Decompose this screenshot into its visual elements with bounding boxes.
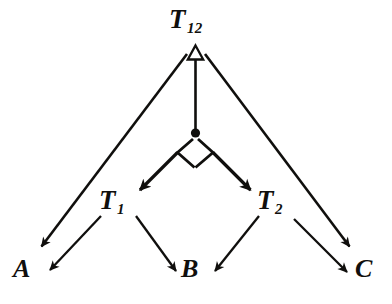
node-t12-base: T <box>169 4 186 34</box>
edge-t1-to-b <box>136 216 176 271</box>
node-label-a: A <box>13 256 31 282</box>
node-t2-subscript: 2 <box>274 201 283 217</box>
hollow-triangle-arrowhead-icon <box>188 46 203 60</box>
node-c-base: C <box>355 254 373 283</box>
merge-dot-icon <box>191 128 200 137</box>
node-label-t12: T12 <box>169 6 203 36</box>
edge-t12-to-c <box>205 54 350 247</box>
node-t2-base: T <box>257 185 274 215</box>
edge-junction-to-t2 <box>213 153 251 191</box>
node-t1-subscript: 1 <box>116 201 125 217</box>
edge-t2-to-c <box>294 219 347 272</box>
node-label-t1: T1 <box>99 187 125 217</box>
edge-t12-to-a <box>42 54 188 247</box>
node-t1-base: T <box>99 185 116 215</box>
diagram-canvas: T12 T1 T2 A B C <box>0 0 392 304</box>
edge-junction-to-t1 <box>140 153 178 191</box>
junction-diamond-left-upper <box>178 139 195 168</box>
node-label-b: B <box>181 256 199 282</box>
node-label-t2: T2 <box>257 187 283 217</box>
node-label-c: C <box>355 256 373 282</box>
junction-diamond-right-upper <box>196 139 214 168</box>
node-t12-subscript: 12 <box>186 20 203 36</box>
edge-t2-to-b <box>215 216 259 271</box>
node-b-base: B <box>181 254 199 283</box>
node-a-base: A <box>13 254 31 283</box>
